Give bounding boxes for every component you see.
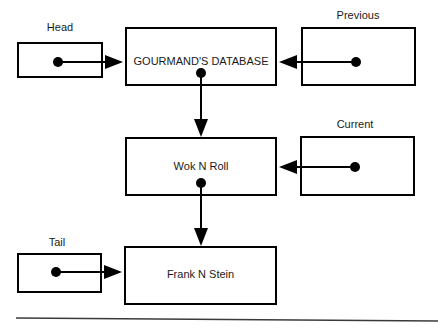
current-arrow-icon (279, 160, 297, 174)
previous-box[interactable] (302, 28, 415, 85)
pointer-node-current[interactable] (279, 137, 414, 195)
caption-previous: Previous (298, 10, 418, 21)
pointer-node-head[interactable] (18, 43, 123, 77)
caption-tail: Tail (0, 237, 117, 248)
db-next-arrow-icon (194, 119, 208, 137)
tail-arrow-icon (104, 265, 122, 279)
pointer-node-tail[interactable] (18, 254, 122, 292)
caption-current: Current (295, 119, 415, 130)
node-label-wok-n-roll: Wok N Roll (126, 161, 276, 172)
linked-list-diagram: Head Previous Current Tail GOURMAND'S DA… (0, 0, 438, 329)
node-label-frank-n-stein: Frank N Stein (125, 269, 276, 280)
pointer-node-previous[interactable] (279, 28, 415, 85)
baseline-divider (16, 318, 438, 321)
wok-next-arrow-icon (194, 228, 208, 246)
caption-head: Head (0, 22, 120, 33)
head-arrow-icon (105, 55, 123, 69)
previous-arrow-icon (279, 55, 297, 69)
node-label-gourmands-database: GOURMAND'S DATABASE (126, 56, 276, 67)
